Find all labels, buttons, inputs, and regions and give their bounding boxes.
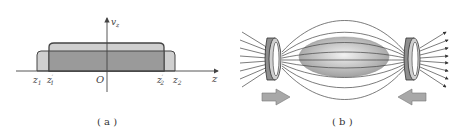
caption-b: ( b ) xyxy=(332,116,353,127)
x-axis-label: z xyxy=(211,73,218,84)
arrow-left-icon xyxy=(398,89,426,105)
tick-z2-prime: z′2 xyxy=(156,73,164,86)
tick-z1: z1 xyxy=(32,75,42,86)
arrow-right-icon xyxy=(262,89,290,105)
tick-z2: z2 xyxy=(172,75,182,86)
origin-label: O xyxy=(96,74,104,85)
distribution-overlap xyxy=(49,51,164,71)
panel-a-velocity-distribution: vz z O z1 z′1 z′2 z2 ( a ) xyxy=(0,0,230,139)
y-axis-label: vz xyxy=(111,17,120,28)
tick-z1-prime: z′1 xyxy=(46,73,54,86)
plasma-ellipsoid xyxy=(299,37,389,77)
right-coil xyxy=(404,38,420,80)
caption-a: ( a ) xyxy=(97,116,117,127)
panel-b-magnetic-compression: ( b ) xyxy=(230,0,457,139)
left-coil xyxy=(265,38,281,80)
